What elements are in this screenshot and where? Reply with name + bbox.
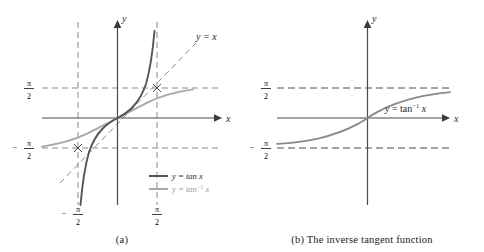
svg-text:π: π xyxy=(264,79,268,88)
x-axis-arrow-b xyxy=(442,114,450,122)
panel-a-ytick-pos: π 2 xyxy=(24,79,34,101)
svg-text:2: 2 xyxy=(27,152,31,161)
panel-b: y x y = tan−1 x π 2 − π 2 (b) The invers… xyxy=(240,0,484,252)
panel-a-y-axis-label: y xyxy=(121,13,127,24)
legend-label-arctan: y = tan−1 x xyxy=(171,184,209,194)
figure-root: y x y = x π 2 − π 2 − π 2 xyxy=(0,0,484,252)
legend-label-tan: y = tan x xyxy=(171,171,203,181)
svg-text:−: − xyxy=(250,143,255,152)
identity-line-label: y = x xyxy=(195,31,217,42)
panel-b-x-axis-label: x xyxy=(453,113,459,124)
panel-b-curve-label: y = tan−1 x xyxy=(384,102,427,114)
panel-a-xtick-pos: π 2 xyxy=(152,205,162,227)
panel-a-caption: (a) xyxy=(0,234,244,245)
panel-a: y x y = x π 2 − π 2 − π 2 xyxy=(0,0,244,252)
panel-b-y-axis-label: y xyxy=(371,13,377,24)
svg-text:π: π xyxy=(155,205,159,214)
svg-text:π: π xyxy=(27,139,31,148)
panel-a-ytick-neg: − π 2 xyxy=(13,139,34,161)
svg-text:2: 2 xyxy=(76,218,80,227)
panel-a-plot: y x y = x π 2 − π 2 − π 2 xyxy=(0,0,244,252)
svg-text:2: 2 xyxy=(264,152,268,161)
svg-text:2: 2 xyxy=(27,92,31,101)
svg-text:π: π xyxy=(264,139,268,148)
svg-text:−: − xyxy=(13,143,18,152)
svg-text:−: − xyxy=(62,209,67,218)
x-axis-arrow xyxy=(214,114,222,122)
panel-b-plot: y x y = tan−1 x π 2 − π 2 xyxy=(240,0,484,252)
panel-a-xtick-neg: − π 2 xyxy=(62,205,83,227)
y-axis-arrow-b xyxy=(364,20,372,28)
y-axis-arrow xyxy=(114,20,122,28)
svg-text:2: 2 xyxy=(155,218,159,227)
svg-text:π: π xyxy=(76,205,80,214)
panel-b-caption: (b) The inverse tangent function xyxy=(240,234,484,245)
panel-b-ytick-pos: π 2 xyxy=(261,79,271,101)
panel-a-x-axis-label: x xyxy=(225,113,231,124)
svg-text:π: π xyxy=(27,79,31,88)
svg-text:2: 2 xyxy=(264,92,268,101)
panel-b-ytick-neg: − π 2 xyxy=(250,139,271,161)
panel-a-legend: y = tan x y = tan−1 x xyxy=(149,171,209,194)
